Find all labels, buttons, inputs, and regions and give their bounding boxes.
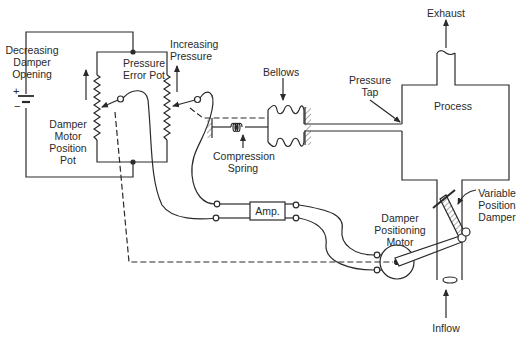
label-damper-positioning-motor: Damper Positioning Motor (371, 212, 429, 248)
battery-minus-sign: − (14, 100, 20, 112)
wire-amp-to-motor-2 (299, 218, 374, 270)
left-wiper-terminal (118, 96, 124, 102)
label-bellows: Bellows (263, 66, 299, 78)
variable-position-damper (433, 190, 470, 242)
exhaust-pipe-end (437, 51, 455, 55)
amp-output-terminal-2 (293, 215, 299, 221)
amp-input-terminal-2 (213, 215, 219, 221)
battery-plus-sign: + (13, 85, 19, 97)
pressure-tap-arrow (370, 100, 400, 122)
compression-spring (231, 123, 242, 131)
label-variable-position-damper: Variable Position Damper (472, 187, 522, 223)
label-exhaust: Exhaust (422, 7, 470, 19)
label-amp: Amp. (250, 205, 285, 217)
damper-motor-position-pot-resistor (94, 75, 100, 140)
wire-amp-to-motor-1 (299, 205, 374, 255)
label-pressure-error-pot: Pressure Error Pot (114, 57, 174, 81)
wire-right-pot-to-amp (192, 92, 215, 204)
bellows-anchor-wall (305, 107, 311, 145)
label-decreasing-damper-opening: Decreasing Damper Opening (3, 44, 61, 80)
label-process: Process (428, 100, 478, 112)
amp-output-terminal-1 (293, 202, 299, 208)
bellows-link-to-pot (190, 108, 268, 118)
motor-terminal-2 (374, 267, 380, 273)
label-inflow: Inflow (425, 322, 467, 334)
motor-terminal-1 (374, 252, 380, 258)
pressure-error-pot-resistor (164, 75, 170, 140)
label-damper-motor-position-pot: Damper Motor Position Pot (44, 118, 92, 166)
amp-input-terminal-1 (214, 201, 220, 207)
spring-anchor-wall (207, 118, 212, 138)
label-pressure-tap: Pressure Tap (348, 74, 392, 98)
label-increasing-pressure: Increasing Pressure (170, 38, 218, 62)
bellows (268, 106, 304, 147)
mechanical-feedback-link (115, 112, 393, 262)
right-wiper-terminal (195, 97, 201, 103)
left-wiper (102, 100, 118, 107)
label-compression-spring: Compression Spring (213, 150, 273, 174)
inflow-pipe-end (443, 277, 457, 283)
right-wiper (173, 100, 195, 106)
